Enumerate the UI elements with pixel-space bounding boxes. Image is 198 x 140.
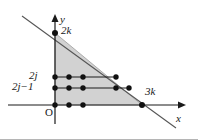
x-axis-label: x — [176, 113, 181, 124]
lattice-point — [80, 102, 85, 107]
lattice-point — [126, 85, 131, 90]
x-intercept-label: 3k — [145, 86, 155, 97]
lattice-point — [66, 102, 71, 107]
lattice-point — [66, 74, 71, 79]
origin-label: O — [45, 107, 53, 118]
lattice-point — [52, 74, 57, 79]
y-intercept-label: 2k — [61, 25, 71, 36]
y-axis-arrow-icon — [52, 14, 59, 22]
lattice-point — [66, 85, 71, 90]
lattice-point — [52, 102, 57, 107]
lattice-point — [52, 85, 57, 90]
lattice-point — [80, 74, 85, 79]
lattice-triangle-figure: y x O 2k 3k 2j 2j−1 — [0, 0, 198, 140]
x-intercept-point — [139, 102, 145, 108]
lattice-point — [113, 74, 118, 79]
row-label-2j-minus-1: 2j−1 — [12, 81, 33, 92]
lattice-point — [113, 85, 118, 90]
lattice-point — [80, 85, 85, 90]
x-axis-arrow-icon — [178, 102, 186, 109]
y-intercept-point — [52, 30, 58, 36]
